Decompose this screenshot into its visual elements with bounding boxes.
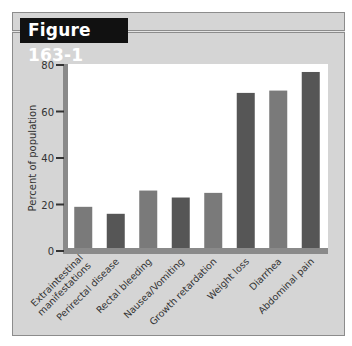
y-tick-label: 60 bbox=[41, 107, 54, 118]
y-tick-mark bbox=[56, 111, 64, 113]
y-tick-label: 20 bbox=[41, 200, 54, 211]
y-tick-mark bbox=[56, 250, 64, 252]
y-tick-label: 40 bbox=[41, 153, 54, 164]
y-tick-label: 0 bbox=[48, 246, 54, 257]
y-tick-mark bbox=[56, 64, 64, 66]
y-tick-mark bbox=[56, 157, 64, 159]
y-tick-label: 80 bbox=[41, 60, 54, 71]
bar-chart: 020406080 ExtraintestinalmanifestationsP… bbox=[0, 0, 352, 346]
bar bbox=[139, 191, 157, 249]
bar bbox=[172, 198, 190, 249]
x-labels-group: ExtraintestinalmanifestationsPerirectal … bbox=[27, 252, 316, 327]
bar bbox=[302, 72, 320, 249]
y-axis-label: Percent of population bbox=[27, 105, 38, 212]
x-axis-line bbox=[63, 248, 328, 254]
bar bbox=[204, 193, 222, 249]
y-tick-mark bbox=[56, 204, 64, 206]
bar bbox=[269, 91, 287, 249]
bar bbox=[107, 214, 125, 249]
y-ticks-group: 020406080 bbox=[41, 60, 64, 257]
bar bbox=[237, 93, 255, 249]
x-tick-label: Abdominal pain bbox=[256, 256, 316, 316]
x-tick-label: Nausea/Vomiting bbox=[121, 256, 186, 321]
bar bbox=[74, 207, 92, 249]
x-tick-label: Rectal bleeding bbox=[94, 256, 154, 316]
